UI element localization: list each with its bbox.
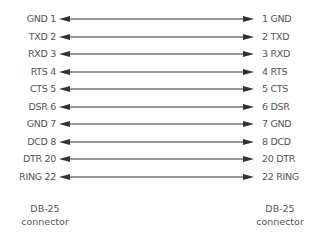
right-pin-label: 3 RXD	[262, 48, 290, 60]
arrowhead-left-icon	[59, 51, 70, 57]
right-pin-label: 6 DSR	[262, 101, 290, 113]
right-connector-type: DB-25	[250, 202, 310, 215]
arrowhead-left-icon	[59, 34, 70, 40]
left-pin-label: DSR 6	[28, 101, 56, 113]
arrowhead-right-icon	[243, 139, 254, 145]
left-pin-label: RTS 4	[31, 66, 56, 78]
wire-row	[59, 51, 254, 57]
wire-row	[59, 86, 254, 92]
arrowhead-right-icon	[243, 156, 254, 162]
left-pin-label: CTS 5	[30, 83, 56, 95]
right-pin-label: 2 TXD	[262, 31, 289, 43]
right-connector-label: DB-25 connector	[250, 202, 310, 228]
left-connector-word: connector	[15, 215, 75, 228]
left-connector-label: DB-25 connector	[15, 202, 75, 228]
arrowhead-right-icon	[243, 121, 254, 127]
arrowhead-left-icon	[59, 69, 70, 75]
arrowhead-right-icon	[243, 104, 254, 110]
arrowhead-left-icon	[59, 104, 70, 110]
wire-row	[59, 69, 254, 75]
arrowhead-right-icon	[243, 69, 254, 75]
right-connector-word: connector	[250, 215, 310, 228]
wire-row	[59, 121, 254, 127]
wire-row	[59, 139, 254, 145]
left-connector-type: DB-25	[15, 202, 75, 215]
wire-row	[59, 156, 254, 162]
arrowhead-left-icon	[59, 156, 70, 162]
arrowhead-right-icon	[243, 34, 254, 40]
right-pin-label: 7 GND	[262, 118, 291, 130]
arrowhead-right-icon	[243, 16, 254, 22]
left-pin-label: DCD 8	[27, 136, 56, 148]
arrowhead-right-icon	[243, 86, 254, 92]
arrowhead-left-icon	[59, 121, 70, 127]
arrowhead-left-icon	[59, 86, 70, 92]
arrowhead-left-icon	[59, 16, 70, 22]
wire-row	[59, 174, 254, 180]
right-pin-label: 5 CTS	[262, 83, 288, 95]
right-pin-label: 8 DCD	[262, 136, 291, 148]
left-pin-label: GND 1	[27, 13, 56, 25]
arrowhead-left-icon	[59, 139, 70, 145]
arrowhead-left-icon	[59, 174, 70, 180]
right-pin-label: 1 GND	[262, 13, 291, 25]
wire-row	[59, 104, 254, 110]
wire-row	[59, 16, 254, 22]
wire-row	[59, 34, 254, 40]
left-pin-label: RXD 3	[28, 48, 56, 60]
left-pin-label: RING 22	[19, 171, 56, 183]
right-pin-label: 20 DTR	[262, 153, 295, 165]
arrowhead-right-icon	[243, 174, 254, 180]
left-pin-label: DTR 20	[23, 153, 56, 165]
right-pin-label: 22 RING	[262, 171, 299, 183]
arrowhead-right-icon	[243, 51, 254, 57]
left-pin-label: TXD 2	[29, 31, 56, 43]
left-pin-label: GND 7	[27, 118, 56, 130]
right-pin-label: 4 RTS	[262, 66, 287, 78]
